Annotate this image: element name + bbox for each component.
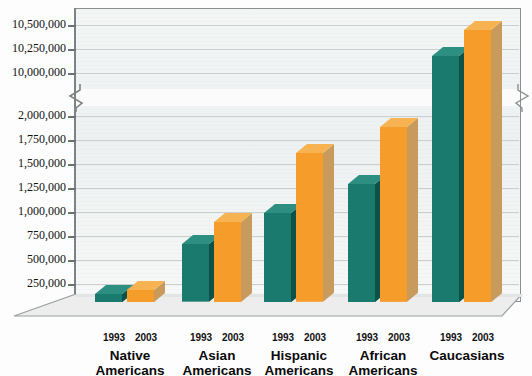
- y-axis-tick-label: 1,750,000: [18, 132, 66, 147]
- x-axis-year-label: 1993: [433, 332, 469, 343]
- gridline: [76, 25, 519, 26]
- x-axis-year-label: 1993: [183, 332, 219, 343]
- bar-side-face: [464, 21, 502, 302]
- y-axis-tick-label: 10,500,000: [12, 17, 66, 32]
- y-axis-tick-label: 250,000: [27, 276, 66, 291]
- bar-2003-native-americans: [127, 281, 165, 302]
- y-axis-tick: [68, 188, 76, 190]
- y-axis-tick-label: 2,000,000: [18, 108, 66, 123]
- y-axis-tick: [68, 116, 76, 118]
- y-axis-tick: [68, 212, 76, 214]
- x-axis-group-label: Caucasians: [407, 348, 527, 363]
- y-axis-tick: [68, 25, 76, 27]
- y-axis-tick-label: 10,000,000: [12, 65, 66, 80]
- x-axis-year-label: 2003: [215, 332, 251, 343]
- y-axis-tick-label: 1,000,000: [18, 204, 66, 219]
- x-axis-year-label: 1993: [96, 332, 132, 343]
- bar-side-face: [127, 281, 165, 302]
- x-axis-year-label: 1993: [349, 332, 385, 343]
- y-axis-tick: [68, 140, 76, 142]
- bar-2003-caucasians: [464, 21, 502, 302]
- bar-2003-asian-americans: [214, 213, 252, 302]
- y-axis-tick: [68, 236, 76, 238]
- x-axis-year-label: 2003: [381, 332, 417, 343]
- bar-side-face: [214, 213, 252, 302]
- y-axis-tick: [68, 284, 76, 286]
- bar-side-face: [296, 144, 334, 302]
- y-axis-tick-label: 10,250,000: [12, 41, 66, 56]
- bar-2003-hispanic-americans: [296, 144, 334, 302]
- y-axis-tick: [68, 49, 76, 51]
- x-axis-year-label: 2003: [297, 332, 333, 343]
- y-axis-tick: [68, 260, 76, 262]
- y-axis-tick: [68, 164, 76, 166]
- bar-side-face: [380, 118, 418, 302]
- axis-break-right-icon: [512, 84, 532, 112]
- x-axis-year-label: 2003: [465, 332, 501, 343]
- y-axis-tick-label: 1,250,000: [18, 180, 66, 195]
- group-label-line1: Caucasians: [407, 348, 527, 363]
- x-axis-year-label: 2003: [128, 332, 164, 343]
- y-axis-tick-label: 750,000: [27, 228, 66, 243]
- axis-break-left-icon: [66, 84, 86, 112]
- y-axis-tick: [68, 73, 76, 75]
- bar-2003-african-americans: [380, 118, 418, 302]
- bar-chart: 10,500,00010,250,00010,000,0002,000,0001…: [0, 0, 532, 376]
- group-label-line2: Americans: [323, 363, 443, 376]
- x-axis-year-label: 1993: [265, 332, 301, 343]
- y-axis-tick-label: 1,500,000: [18, 156, 66, 171]
- y-axis-tick-label: 500,000: [27, 252, 66, 267]
- y-axis-line: [74, 8, 76, 302]
